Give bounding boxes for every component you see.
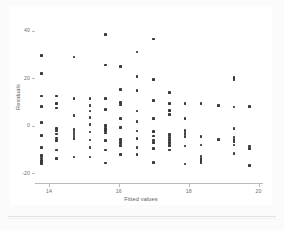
x-tick-label: 14 xyxy=(39,189,59,194)
scatter-point xyxy=(152,135,155,138)
scatter-point xyxy=(184,117,187,120)
scatter-point xyxy=(119,117,122,120)
scatter-point xyxy=(168,102,171,105)
scatter-point xyxy=(152,141,155,144)
scatter-point xyxy=(152,99,155,102)
x-tick-mark xyxy=(259,184,260,187)
scatter-point xyxy=(55,95,58,98)
scatter-point xyxy=(40,163,43,166)
plot-data-area xyxy=(35,26,262,183)
scatter-point xyxy=(119,144,122,147)
scatter-point xyxy=(89,116,92,119)
scatter-point xyxy=(55,102,58,105)
scatter-point xyxy=(152,117,155,120)
y-axis-title: Residuals xyxy=(15,67,21,127)
scatter-point xyxy=(136,137,139,140)
scatter-point xyxy=(217,138,220,141)
scatter-point xyxy=(104,149,107,152)
scatter-chart: 40200-20 14161820 Fitted values Residual… xyxy=(10,6,272,205)
scatter-point xyxy=(152,147,155,150)
plot-card: 40200-20 14161820 Fitted values Residual… xyxy=(10,6,272,205)
scatter-point xyxy=(89,131,92,134)
scatter-point xyxy=(119,153,122,156)
scatter-point xyxy=(104,97,107,100)
bottom-divider-secondary xyxy=(8,218,276,219)
scatter-point xyxy=(104,139,107,142)
scatter-point xyxy=(233,106,236,109)
scatter-point xyxy=(89,139,92,142)
scatter-point xyxy=(136,130,139,133)
scatter-point xyxy=(168,144,171,147)
x-tick-label: 20 xyxy=(249,189,269,194)
scatter-point xyxy=(40,105,43,108)
scatter-point xyxy=(55,133,58,136)
scatter-point xyxy=(233,127,236,130)
scatter-point xyxy=(152,38,155,41)
scatter-point xyxy=(184,145,187,148)
scatter-point xyxy=(119,65,122,68)
scatter-point xyxy=(233,144,236,147)
x-axis-line xyxy=(35,183,263,184)
x-tick-label: 18 xyxy=(179,189,199,194)
scatter-point xyxy=(152,161,155,164)
scatter-point xyxy=(248,147,251,150)
scatter-point xyxy=(168,138,171,141)
scatter-point xyxy=(104,162,107,165)
scatter-point xyxy=(119,138,122,141)
scatter-point xyxy=(184,163,187,166)
scatter-point xyxy=(55,139,58,142)
scatter-point xyxy=(89,97,92,100)
scatter-point xyxy=(89,156,92,159)
scatter-point xyxy=(89,110,92,113)
scatter-point xyxy=(40,134,43,137)
scatter-point xyxy=(248,164,251,167)
scatter-point xyxy=(40,95,43,98)
scatter-point xyxy=(104,132,107,135)
scatter-point xyxy=(136,153,139,156)
scatter-point xyxy=(168,113,171,116)
scatter-point xyxy=(55,149,58,152)
scatter-point xyxy=(40,54,43,57)
scatter-point xyxy=(73,97,76,100)
scatter-point xyxy=(233,78,236,81)
scatter-point xyxy=(152,130,155,133)
scatter-point xyxy=(184,102,187,105)
scatter-point xyxy=(200,161,203,164)
y-tick-label: -20 xyxy=(14,171,30,176)
scatter-point xyxy=(168,91,171,94)
scatter-point xyxy=(200,144,203,147)
scatter-point xyxy=(40,121,43,124)
scatter-point xyxy=(168,109,171,112)
scatter-point xyxy=(104,64,107,67)
scatter-point xyxy=(119,126,122,129)
scatter-point xyxy=(200,102,203,105)
scatter-point xyxy=(136,146,139,149)
scatter-point xyxy=(73,56,76,59)
y-tick-label: 40 xyxy=(14,28,30,33)
scatter-point xyxy=(233,152,236,155)
scatter-point xyxy=(184,135,187,138)
bottom-divider xyxy=(8,216,276,217)
x-tick-mark xyxy=(49,184,50,187)
scatter-point xyxy=(119,88,122,91)
scatter-point xyxy=(104,33,107,36)
scatter-point xyxy=(55,157,58,160)
scatter-point xyxy=(119,104,122,107)
scatter-point xyxy=(89,123,92,126)
scatter-point xyxy=(136,89,139,92)
scatter-point xyxy=(200,135,203,138)
scatter-point xyxy=(136,75,139,78)
scatter-point xyxy=(248,105,251,108)
scatter-point xyxy=(104,108,107,111)
scatter-point xyxy=(152,78,155,81)
scatter-point xyxy=(233,140,236,143)
scatter-point xyxy=(168,149,171,152)
scatter-point xyxy=(217,104,220,107)
scatter-point xyxy=(136,120,139,123)
x-axis-title: Fitted values xyxy=(10,196,272,202)
scatter-point xyxy=(40,72,43,75)
scatter-point xyxy=(89,104,92,107)
scatter-point xyxy=(73,156,76,159)
scatter-point xyxy=(89,146,92,149)
scatter-point xyxy=(136,51,139,54)
